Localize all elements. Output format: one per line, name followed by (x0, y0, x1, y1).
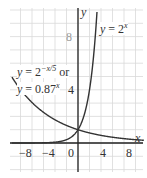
x-tick-4: 4 (100, 147, 106, 159)
y-axis-label: y (81, 6, 86, 18)
x-tick-0: 0 (68, 147, 74, 159)
curve-1-label: yy = 2 = 2x (100, 22, 128, 35)
y-tick-4: 4 (68, 84, 74, 96)
x-tick-8: 8 (126, 147, 132, 159)
curve-2-label-line2: y = 0.87x (17, 82, 60, 95)
y-tick-8: 8 (66, 31, 72, 43)
x-axis-label: x (135, 132, 140, 144)
x-tick-neg4: −4 (42, 147, 55, 159)
curve-2-label-line1: y = 2−x/5 or (17, 65, 69, 78)
x-tick-neg8: −8 (19, 147, 32, 159)
